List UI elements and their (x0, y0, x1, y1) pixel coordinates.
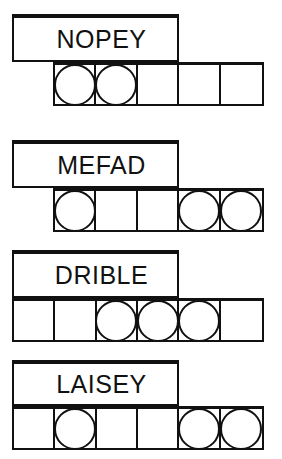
token-cell-empty[interactable] (96, 191, 137, 230)
token-cell-filled[interactable] (55, 409, 96, 448)
circle-token-icon (178, 408, 220, 450)
token-cell-filled[interactable] (55, 191, 96, 230)
word-label-text: MEFAD (14, 153, 171, 178)
word-label-box[interactable]: DRIBLE (12, 250, 179, 298)
token-cell-empty[interactable] (221, 301, 262, 340)
token-cell-strip (53, 188, 264, 232)
token-cell-filled[interactable] (55, 65, 96, 104)
circle-token-icon (178, 300, 220, 342)
token-cell-filled[interactable] (97, 301, 138, 340)
word-label-text: LAISEY (14, 372, 171, 397)
token-cell-empty[interactable] (179, 65, 220, 104)
circle-token-icon (137, 300, 179, 342)
circle-token-icon (178, 190, 220, 232)
token-cell-strip (53, 62, 264, 106)
word-label-box[interactable]: MEFAD (12, 140, 179, 188)
circle-token-icon (95, 64, 137, 106)
token-cell-strip (12, 406, 264, 450)
circle-token-icon (54, 190, 96, 232)
word-label-box[interactable]: NOPEY (12, 14, 179, 62)
token-cell-empty[interactable] (14, 409, 55, 448)
token-cell-strip (12, 298, 264, 342)
token-cell-empty[interactable] (138, 409, 179, 448)
token-cell-filled[interactable] (179, 301, 220, 340)
word-label-text: NOPEY (14, 27, 171, 52)
circle-token-icon (220, 190, 262, 232)
circle-token-icon (95, 300, 137, 342)
word-token-puzzle-page: { "puzzle": { "stroke_color": "#111111",… (0, 0, 282, 459)
circle-token-icon (54, 64, 96, 106)
token-cell-empty[interactable] (97, 409, 138, 448)
token-cell-filled[interactable] (221, 191, 262, 230)
token-cell-empty[interactable] (221, 65, 262, 104)
token-cell-filled[interactable] (221, 409, 262, 448)
token-cell-filled[interactable] (96, 65, 137, 104)
circle-token-icon (220, 408, 262, 450)
token-cell-empty[interactable] (138, 65, 179, 104)
token-cell-filled[interactable] (179, 409, 220, 448)
token-cell-empty[interactable] (138, 191, 179, 230)
word-label-box[interactable]: LAISEY (12, 360, 179, 406)
token-cell-filled[interactable] (179, 191, 220, 230)
token-cell-empty[interactable] (55, 301, 96, 340)
token-cell-empty[interactable] (14, 301, 55, 340)
circle-token-icon (54, 408, 96, 450)
word-label-text: DRIBLE (14, 263, 171, 288)
token-cell-filled[interactable] (138, 301, 179, 340)
